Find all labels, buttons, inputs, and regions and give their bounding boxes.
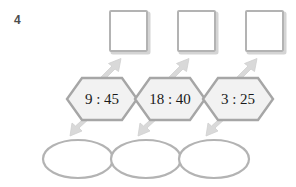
hexagon-time-1-label: 9 : 45 xyxy=(85,91,119,107)
answer-box-3-group[interactable] xyxy=(246,11,285,53)
worksheet-canvas: 4 xyxy=(0,0,296,187)
answer-box-3[interactable] xyxy=(246,11,283,51)
answer-box-2-group[interactable] xyxy=(178,11,217,53)
answer-ellipse-2[interactable] xyxy=(111,140,181,178)
hexagon-time-3-label: 3 : 25 xyxy=(221,91,255,107)
answer-box-1[interactable] xyxy=(110,11,147,51)
diagram-board: 9 : 45 18 : 40 3 : 25 xyxy=(0,0,296,187)
hexagon-time-1-group[interactable]: 9 : 45 xyxy=(67,78,137,120)
hexagon-time-2-group[interactable]: 18 : 40 xyxy=(135,78,205,120)
answer-box-1-group[interactable] xyxy=(110,11,149,53)
answer-ellipse-3[interactable] xyxy=(179,140,249,178)
hexagon-time-3-group[interactable]: 3 : 25 xyxy=(203,78,273,120)
answer-ellipse-1[interactable] xyxy=(43,140,113,178)
hexagon-time-2-label: 18 : 40 xyxy=(149,91,191,107)
answer-box-2[interactable] xyxy=(178,11,215,51)
